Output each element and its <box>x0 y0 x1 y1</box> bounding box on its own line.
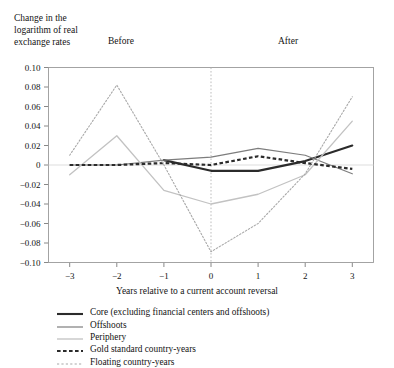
legend-item-label: Core (excluding financial centers and of… <box>90 307 269 317</box>
x-tick-label: −3 <box>65 271 75 281</box>
y-tick-label: −0.06 <box>20 219 41 229</box>
legend-item-label: Offshoots <box>90 320 127 330</box>
y-axis-ticks: 0.100.080.060.040.020−0.02−0.04−0.06−0.0… <box>20 63 49 268</box>
y-tick-label: −0.04 <box>20 199 41 209</box>
legend-dash-icon <box>57 343 83 355</box>
y-tick-label: 0.08 <box>25 82 41 92</box>
y-tick-label: 0.04 <box>25 121 41 131</box>
legend-item-label: Gold standard country-years <box>90 344 196 354</box>
legend-item: Core (excluding financial centers and of… <box>57 306 377 318</box>
legend-line-icon <box>57 319 83 331</box>
legend-item: Periphery <box>57 331 377 343</box>
legend-line-icon <box>57 306 83 318</box>
chart-legend: Core (excluding financial centers and of… <box>57 306 377 368</box>
legend-item-label: Periphery <box>90 332 126 342</box>
legend-item: Offshoots <box>57 318 377 330</box>
x-tick-label: 3 <box>350 271 355 281</box>
legend-dot-icon <box>57 356 83 368</box>
legend-item-label: Floating country-years <box>90 357 174 367</box>
y-tick-label: −0.02 <box>20 180 41 190</box>
x-axis-ticks: −3−2−10123 <box>65 263 355 281</box>
x-tick-label: 1 <box>256 271 261 281</box>
y-tick-label: 0.10 <box>25 63 41 73</box>
y-tick-label: −0.10 <box>20 258 41 268</box>
x-axis-title: Years relative to a current account reve… <box>0 286 394 296</box>
y-tick-label: −0.08 <box>20 238 41 248</box>
x-tick-label: −2 <box>112 271 122 281</box>
legend-item: Floating country-years <box>57 356 377 368</box>
y-tick-label: 0.02 <box>25 141 41 151</box>
chart-plot-area: 0.100.080.060.040.020−0.02−0.04−0.06−0.0… <box>0 0 394 300</box>
y-tick-label: 0.06 <box>25 102 41 112</box>
x-tick-label: 0 <box>209 271 214 281</box>
x-tick-label: −1 <box>159 271 169 281</box>
legend-line-icon <box>57 331 83 343</box>
figure-container: Change in the logarithm of real exchange… <box>0 0 394 368</box>
x-tick-label: 2 <box>303 271 308 281</box>
legend-item: Gold standard country-years <box>57 343 377 355</box>
y-tick-label: 0 <box>36 160 41 170</box>
